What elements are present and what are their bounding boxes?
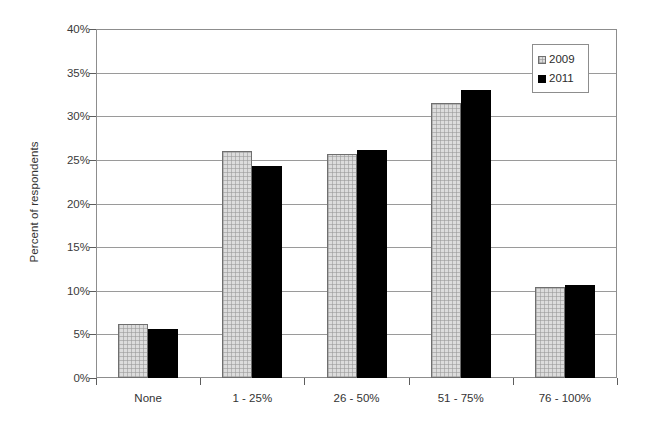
- chart-legend: 20092011: [532, 44, 589, 93]
- bar: [222, 151, 252, 378]
- x-axis-category-label: 76 - 100%: [505, 392, 625, 404]
- y-axis-tick-mark: [89, 378, 96, 379]
- bar-chart: Percent of respondents 0%5%10%15%20%25%3…: [0, 0, 647, 430]
- y-axis-tick-mark: [89, 334, 96, 335]
- y-axis-tick-label: 15%: [46, 241, 90, 253]
- bar: [148, 329, 178, 378]
- black-square-icon: [538, 75, 546, 83]
- bar: [252, 166, 282, 378]
- x-axis-tick-mark: [304, 378, 305, 385]
- y-axis-tick-mark: [89, 247, 96, 248]
- y-axis-tick-label: 30%: [46, 110, 90, 122]
- y-axis-tick-mark: [89, 116, 96, 117]
- bar: [535, 287, 565, 378]
- x-axis-tick-mark: [513, 378, 514, 385]
- x-axis-category-label: 51 - 75%: [401, 392, 521, 404]
- bar: [431, 103, 461, 378]
- bar: [327, 154, 357, 378]
- y-axis-tick-mark: [89, 291, 96, 292]
- bar: [461, 90, 491, 378]
- y-axis-tick-label: 10%: [46, 285, 90, 297]
- y-axis-tick-label: 25%: [46, 154, 90, 166]
- legend-item-label: 2011: [549, 73, 574, 85]
- legend-item: 2009: [538, 50, 588, 69]
- light-gray-textured-square-icon: [538, 56, 546, 64]
- x-axis-category-label: 26 - 50%: [297, 392, 417, 404]
- x-axis-tick-mark: [200, 378, 201, 385]
- y-axis-tick-mark: [89, 29, 96, 30]
- y-axis-tick-mark: [89, 204, 96, 205]
- x-axis-tick-mark: [617, 378, 618, 385]
- y-axis-tick-label: 5%: [46, 328, 90, 340]
- x-axis-tick-mark: [409, 378, 410, 385]
- x-axis-tick-mark: [96, 378, 97, 385]
- y-axis-tick-mark: [89, 73, 96, 74]
- bar: [118, 324, 148, 378]
- y-axis-tick-label: 35%: [46, 67, 90, 79]
- y-axis-title: Percent of respondents: [28, 102, 40, 302]
- x-axis-category-label: 1 - 25%: [192, 392, 312, 404]
- y-axis-tick-label: 0%: [46, 372, 90, 384]
- y-axis-tick-labels: 0%5%10%15%20%25%30%35%40%: [40, 29, 90, 378]
- y-axis-tick-label: 20%: [46, 198, 90, 210]
- y-axis-tick-label: 40%: [46, 23, 90, 35]
- x-axis-category-label: None: [88, 392, 208, 404]
- bar: [565, 285, 595, 378]
- y-axis-tick-mark: [89, 160, 96, 161]
- bar: [357, 150, 387, 378]
- legend-item-label: 2009: [549, 54, 575, 66]
- legend-item: 2011: [538, 69, 588, 88]
